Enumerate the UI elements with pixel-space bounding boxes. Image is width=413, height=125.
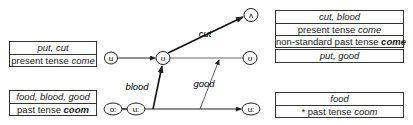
svg-text:u:: u: (248, 105, 255, 114)
node-u-long-right: u: (242, 103, 260, 115)
node-upsilon-center: ʊ (156, 52, 170, 65)
svg-text:ʌ: ʌ (249, 11, 253, 20)
label-blood: blood (125, 81, 149, 92)
node-wedge-top: ʌ (244, 9, 258, 22)
node-u-long-left: u: (127, 103, 145, 115)
node-u-left: u (105, 52, 118, 64)
sound-change-graph: u ʊ ʌ ʊ o: u: u: cut blood good (0, 0, 413, 125)
node-o-long: o: (104, 103, 122, 115)
label-good: good (193, 78, 215, 89)
edge-blood (153, 66, 162, 109)
svg-text:ʊ: ʊ (161, 54, 166, 63)
svg-text:o:: o: (110, 105, 117, 114)
svg-text:ʊ: ʊ (248, 54, 253, 63)
svg-text:u:: u: (133, 105, 140, 114)
svg-text:u: u (109, 54, 113, 63)
node-upsilon-right: ʊ (243, 52, 257, 65)
label-cut: cut (199, 28, 212, 39)
